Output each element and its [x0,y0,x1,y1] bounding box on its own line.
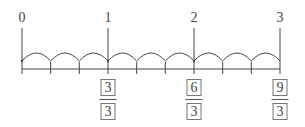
numerator-box: 9 [273,79,288,96]
numerator-box: 6 [187,79,202,96]
denominator-box: 3 [101,103,116,120]
minor-ticks [51,62,252,74]
fraction-9-3: 9 3 [272,79,289,120]
label-1: 1 [105,11,112,25]
numerator-box: 3 [101,79,116,96]
denominator-box: 3 [273,103,288,120]
fraction-3-3: 3 3 [100,79,117,120]
fraction-bar [100,99,117,100]
fraction-6-3: 6 3 [186,79,203,120]
label-0: 0 [19,11,26,25]
fraction-bar [272,99,289,100]
denominator-box: 3 [187,103,202,120]
label-3: 3 [277,11,284,25]
jump-arcs [22,53,280,61]
fraction-bar [186,99,203,100]
number-line-drawing [0,0,305,127]
label-2: 2 [191,11,198,25]
